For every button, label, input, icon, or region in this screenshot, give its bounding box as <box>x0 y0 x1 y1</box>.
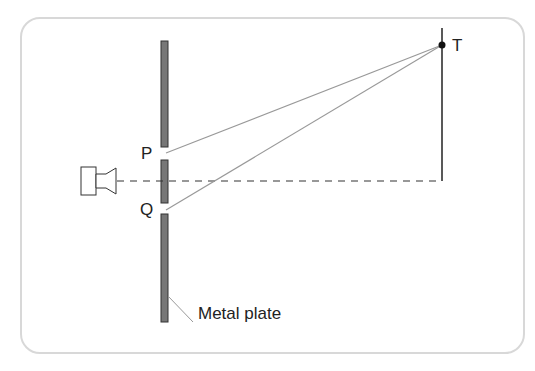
ray-P-to-T <box>166 45 442 153</box>
point-T <box>439 42 446 49</box>
ray-Q-to-T <box>166 45 442 210</box>
plate-top-segment <box>161 41 168 147</box>
plate-bottom-segment <box>161 214 168 322</box>
label-P: P <box>141 145 152 162</box>
label-T: T <box>452 37 462 54</box>
label-Q: Q <box>140 201 153 218</box>
plate-leader <box>168 296 193 322</box>
label-metal-plate: Metal plate <box>198 305 281 322</box>
speaker-icon <box>81 167 116 195</box>
